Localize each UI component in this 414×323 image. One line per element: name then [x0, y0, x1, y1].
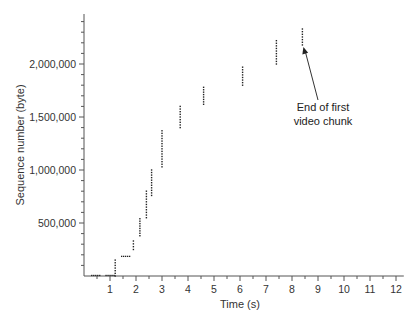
data-point	[180, 106, 181, 107]
data-point	[203, 91, 204, 92]
data-point	[161, 166, 162, 167]
y-tick-label: 2,000,000	[29, 58, 76, 70]
y-axis-label: Sequence number (byte)	[14, 84, 26, 205]
data-point	[91, 275, 92, 276]
data-point	[276, 63, 277, 64]
x-tick-label: 12	[390, 283, 402, 295]
data-point	[276, 58, 277, 59]
data-point	[161, 146, 162, 147]
data-point	[151, 195, 152, 196]
data-point	[242, 72, 243, 73]
point-cluster	[115, 259, 116, 276]
data-point	[161, 158, 162, 159]
data-point	[115, 273, 116, 274]
data-point	[180, 108, 181, 109]
point-cluster	[180, 106, 181, 129]
data-point	[203, 101, 204, 102]
data-point	[115, 270, 116, 271]
x-tick-label: 1	[107, 283, 113, 295]
data-point	[180, 127, 181, 128]
data-point	[302, 44, 303, 45]
data-point	[139, 233, 140, 234]
x-tick-label: 11	[365, 283, 376, 295]
data-point	[111, 275, 112, 276]
data-point	[180, 122, 181, 123]
data-point	[302, 31, 303, 32]
data-point	[161, 130, 162, 131]
axes: 500,0001,000,0001,500,0002,000,000123456…	[14, 14, 404, 310]
data-point	[242, 69, 243, 70]
data-point	[139, 223, 140, 224]
data-point	[161, 135, 162, 136]
data-point	[242, 66, 243, 67]
x-tick-label: 10	[338, 283, 350, 295]
x-axis-label: Time (s)	[220, 298, 260, 310]
data-point	[302, 36, 303, 37]
data-point	[276, 45, 277, 46]
data-point	[180, 114, 181, 115]
data-point	[151, 174, 152, 175]
data-point	[139, 225, 140, 226]
data-point	[276, 56, 277, 57]
data-point	[242, 74, 243, 75]
y-tick-label: 500,000	[38, 217, 76, 229]
data-point	[276, 53, 277, 54]
data-point	[146, 191, 147, 192]
data-point	[115, 259, 116, 260]
data-point	[203, 104, 204, 105]
data-point	[151, 185, 152, 186]
data-point	[139, 218, 140, 219]
data-point	[125, 256, 126, 257]
data-point	[302, 42, 303, 43]
data-point	[180, 124, 181, 125]
data-point	[129, 256, 130, 257]
data-point	[276, 48, 277, 49]
data-point	[95, 275, 96, 276]
data-point	[115, 267, 116, 268]
data-point	[151, 182, 152, 183]
data-point	[242, 77, 243, 78]
data-point	[151, 179, 152, 180]
annotation-arrow-line	[305, 52, 318, 100]
data-point	[139, 235, 140, 236]
data-point	[161, 156, 162, 157]
data-point	[105, 275, 106, 276]
data-point	[123, 256, 124, 257]
data-point	[161, 161, 162, 162]
data-point	[151, 187, 152, 188]
data-point	[151, 177, 152, 178]
data-point	[276, 40, 277, 41]
data-point	[115, 262, 116, 263]
data-point	[180, 119, 181, 120]
annotation-arrowhead-icon	[302, 47, 308, 55]
data-point	[146, 198, 147, 199]
data-point	[146, 214, 147, 215]
x-tick-label: 7	[263, 283, 269, 295]
data-point	[115, 265, 116, 266]
data-point	[146, 196, 147, 197]
data-point	[115, 275, 116, 276]
data-point	[146, 217, 147, 218]
x-tick-label: 2	[133, 283, 139, 295]
data-point	[161, 164, 162, 165]
data-point	[151, 169, 152, 170]
data-point	[127, 256, 128, 257]
data-point	[146, 201, 147, 202]
data-point	[242, 82, 243, 83]
data-point	[242, 85, 243, 86]
data-point	[97, 275, 98, 276]
point-cluster	[242, 66, 243, 85]
data-points	[91, 28, 303, 276]
data-point	[146, 212, 147, 213]
data-point	[242, 79, 243, 80]
data-point	[107, 275, 108, 276]
x-tick-label: 6	[237, 283, 243, 295]
annotation: End of firstvideo chunk	[294, 47, 353, 127]
x-tick-label: 5	[211, 283, 217, 295]
data-point	[146, 209, 147, 210]
point-cluster	[203, 87, 204, 105]
point-cluster	[121, 256, 130, 257]
point-cluster	[139, 218, 140, 236]
data-point	[151, 172, 152, 173]
data-point	[151, 190, 152, 191]
